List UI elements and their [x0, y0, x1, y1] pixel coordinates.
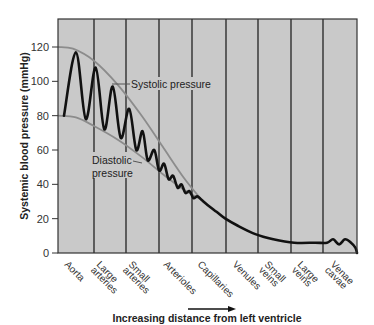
category-label: Largeveins — [290, 259, 322, 291]
svg-text:Capillaries: Capillaries — [195, 259, 236, 300]
category-label: Arterioles — [161, 259, 199, 297]
svg-text:Venules: Venules — [230, 259, 263, 292]
y-axis-ticks: 020406080100120 — [31, 41, 58, 259]
category-label: Venules — [230, 259, 263, 292]
plot-area — [58, 19, 357, 253]
category-label: Capillaries — [195, 259, 236, 300]
y-tick-label: 120 — [31, 41, 49, 53]
svg-text:Aorta: Aorta — [62, 259, 87, 284]
category-label: Venaecavae — [323, 259, 357, 293]
plot-background — [58, 19, 357, 253]
y-tick-label: 80 — [37, 110, 49, 122]
x-axis-category-labels: AortaLargearteriesSmallarteriesArteriole… — [62, 259, 356, 300]
systolic-pressure-label: Systolic pressure — [131, 78, 211, 90]
diastolic-pressure-label-line2: pressure — [92, 167, 133, 179]
category-label: Smallarteries — [121, 259, 158, 296]
y-tick-label: 40 — [37, 178, 49, 190]
y-tick-label: 0 — [43, 247, 49, 259]
category-label: Aorta — [62, 259, 87, 284]
diastolic-pressure-label-line1: Diastolic — [92, 154, 132, 166]
y-tick-label: 20 — [37, 213, 49, 225]
y-tick-label: 60 — [37, 144, 49, 156]
y-axis-title: Systemic blood pressure (mmHg) — [18, 52, 30, 219]
x-axis-title: Increasing distance from left ventricle — [112, 312, 301, 324]
blood-pressure-chart: 020406080100120 Systolic pressure Diasto… — [0, 0, 374, 325]
category-label: Largearteries — [89, 259, 126, 296]
svg-text:Arterioles: Arterioles — [161, 259, 199, 297]
y-tick-label: 100 — [31, 75, 49, 87]
